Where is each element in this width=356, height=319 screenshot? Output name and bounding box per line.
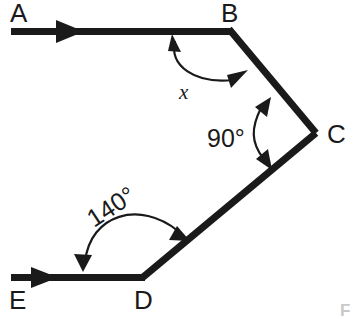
angle-label-140: 140° xyxy=(81,181,140,233)
geometry-diagram-canvas: A B C D E x 90° 140° F xyxy=(0,0,356,319)
arrow-on-ed-icon xyxy=(31,267,58,288)
vertex-label-d: D xyxy=(134,285,153,315)
segment-bc-line xyxy=(229,29,316,133)
angle-140-arrow-end-icon xyxy=(169,226,190,241)
angle-label-90: 90° xyxy=(207,124,245,152)
angle-label-x: x xyxy=(178,80,189,104)
vertex-label-b: B xyxy=(221,0,238,28)
angle-140-arrow-start-icon xyxy=(74,254,92,272)
vertex-label-e: E xyxy=(9,285,26,315)
angle-x-arrow-end-icon xyxy=(227,70,248,88)
vertex-label-a: A xyxy=(10,0,28,28)
angle-x-arrow-start-icon xyxy=(168,34,181,52)
angle-x-arc xyxy=(174,41,233,81)
angle-90-arc-group xyxy=(254,97,272,170)
corner-mark-letter: F xyxy=(340,301,350,319)
vertex-label-c: C xyxy=(327,119,346,149)
segment-cd-line xyxy=(142,133,316,278)
arrow-on-ab-icon xyxy=(56,20,84,43)
figure-strokes xyxy=(11,29,316,278)
angle-90-arc xyxy=(254,108,263,158)
direction-arrowheads xyxy=(31,20,84,288)
geometry-svg: A B C D E x 90° 140° F xyxy=(0,0,356,319)
